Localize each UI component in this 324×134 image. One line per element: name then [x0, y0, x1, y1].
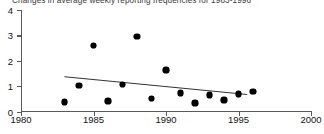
data-point	[207, 92, 213, 98]
data-point	[163, 67, 169, 73]
data-point	[178, 90, 184, 96]
data-point	[62, 99, 68, 105]
trend-line	[21, 10, 311, 112]
data-point	[76, 83, 82, 89]
y-tick-label-1: 1	[1, 82, 13, 92]
data-point	[105, 98, 111, 104]
x-tick-label-1990: 1990	[146, 115, 186, 125]
y-tick-label-3: 3	[1, 31, 13, 41]
data-point	[250, 89, 256, 95]
x-tick-label-1980: 1980	[1, 115, 41, 125]
data-point	[221, 97, 227, 103]
plot-area: 4 3 2 1 0 1980 1985 1990 1995 2000	[21, 10, 311, 112]
chart-title: Changes in average weekly reporting freq…	[12, 0, 312, 7]
data-point	[236, 91, 242, 97]
y-tick-label-4: 4	[1, 6, 13, 16]
data-point	[192, 100, 198, 106]
x-tick-label-1995: 1995	[219, 115, 259, 125]
chart-figure: Changes in average weekly reporting freq…	[0, 0, 324, 134]
x-tick-label-2000: 2000	[291, 115, 324, 125]
y-tick-label-2: 2	[1, 57, 13, 67]
x-tick-label-1985: 1985	[74, 115, 114, 125]
